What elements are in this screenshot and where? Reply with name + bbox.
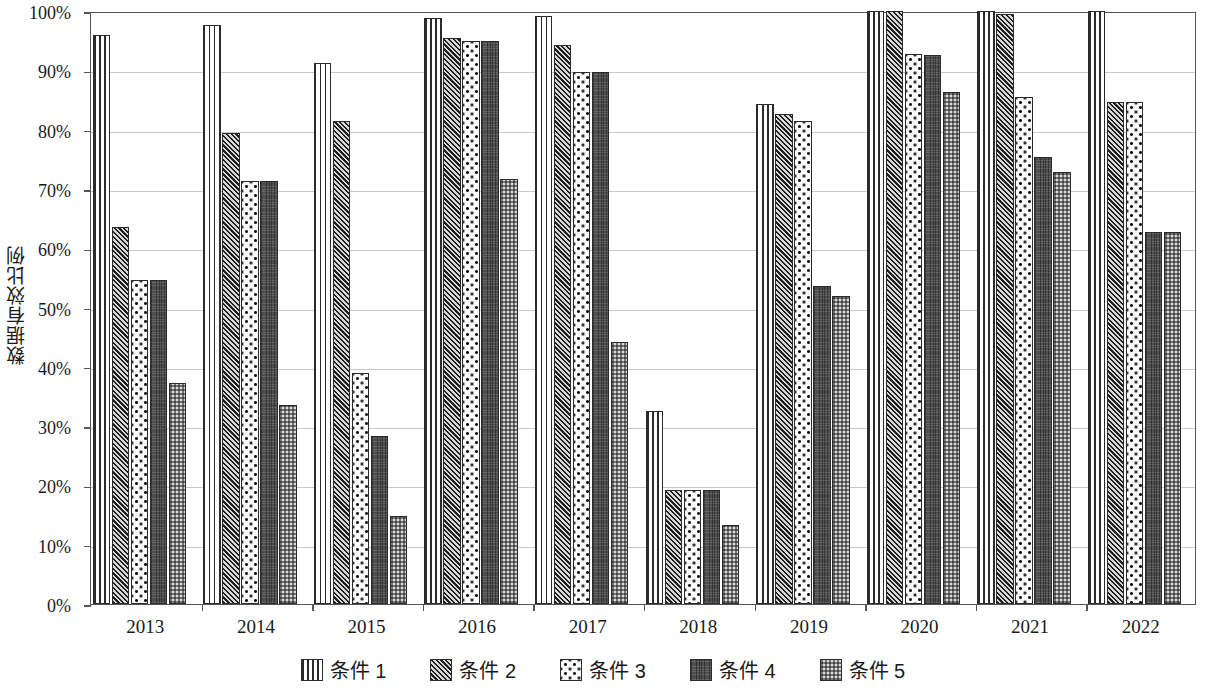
y-tick-mark	[84, 250, 91, 251]
legend-swatch-solid-dark-gray	[690, 659, 712, 681]
bar	[424, 18, 442, 604]
y-tick-mark	[84, 605, 91, 606]
y-tick-label: 50%	[7, 299, 71, 320]
bar	[573, 72, 591, 604]
bar	[1164, 232, 1182, 604]
y-tick-mark	[84, 12, 91, 13]
x-tick-label: 2016	[458, 616, 496, 638]
bar	[1107, 102, 1125, 604]
bar	[169, 383, 187, 604]
y-tick-label: 20%	[7, 477, 71, 498]
legend-item[interactable]: 条件 3	[560, 655, 646, 684]
y-tick-label: 60%	[7, 240, 71, 261]
x-tick-mark	[755, 604, 756, 611]
legend-item[interactable]: 条件 1	[301, 655, 387, 684]
y-tick-mark	[84, 190, 91, 191]
y-tick-label: 30%	[7, 418, 71, 439]
legend-item[interactable]: 条件 5	[820, 655, 906, 684]
legend-swatch-diagonal-hatch	[430, 659, 452, 681]
chart-legend: 条件 1条件 2条件 3条件 4条件 5	[0, 655, 1206, 684]
x-tick-label: 2013	[126, 616, 164, 638]
x-tick-label: 2021	[1011, 616, 1049, 638]
y-tick-label: 0%	[7, 596, 71, 617]
bar	[112, 227, 130, 604]
bar	[1053, 172, 1071, 604]
bar	[481, 41, 499, 604]
legend-item[interactable]: 条件 2	[430, 655, 516, 684]
bar	[646, 411, 664, 604]
y-tick-mark	[84, 309, 91, 310]
legend-swatch-vertical-stripes	[301, 659, 323, 681]
bar	[535, 16, 553, 604]
bar	[832, 296, 850, 604]
y-tick-label: 90%	[7, 62, 71, 83]
bar	[1145, 232, 1163, 604]
bar	[1088, 11, 1106, 604]
bar	[352, 373, 370, 604]
bar	[443, 38, 461, 604]
bar	[813, 286, 831, 604]
bar	[222, 133, 240, 604]
legend-label: 条件 3	[589, 655, 646, 684]
bar	[684, 490, 702, 604]
bar	[996, 14, 1014, 604]
bar	[611, 342, 629, 604]
bar	[867, 11, 885, 604]
bar	[1126, 102, 1144, 604]
x-tick-mark	[1086, 604, 1087, 611]
legend-label: 条件 1	[330, 655, 387, 684]
x-tick-label: 2019	[790, 616, 828, 638]
y-tick-mark	[84, 131, 91, 132]
bar	[150, 280, 168, 604]
bar	[241, 181, 259, 604]
y-tick-label: 40%	[7, 358, 71, 379]
bar	[260, 181, 278, 604]
bar	[703, 490, 721, 604]
bar	[943, 92, 961, 604]
bar	[977, 11, 995, 604]
x-tick-label: 2020	[901, 616, 939, 638]
bar	[131, 280, 149, 604]
x-tick-label: 2017	[569, 616, 607, 638]
x-tick-mark	[976, 604, 977, 611]
bar	[794, 121, 812, 604]
gridline	[91, 72, 1195, 73]
x-tick-mark	[644, 604, 645, 611]
bar	[775, 114, 793, 604]
legend-label: 条件 2	[459, 655, 516, 684]
bar	[886, 11, 904, 604]
y-tick-mark	[84, 368, 91, 369]
x-tick-mark	[202, 604, 203, 611]
plot-area: 0%10%20%30%40%50%60%70%80%90%100%	[90, 12, 1196, 605]
legend-swatch-polka-dots	[560, 659, 582, 681]
bar	[371, 436, 389, 604]
x-tick-mark	[865, 604, 866, 611]
bar-chart: 数据有效比例 0%10%20%30%40%50%60%70%80%90%100%…	[0, 0, 1206, 696]
bar	[756, 104, 774, 604]
bar	[500, 179, 518, 604]
legend-swatch-light-checker	[820, 659, 842, 681]
x-tick-label: 2015	[348, 616, 386, 638]
bar	[333, 121, 351, 604]
x-tick-label: 2014	[237, 616, 275, 638]
x-tick-mark	[533, 604, 534, 611]
bar	[203, 25, 221, 604]
bar	[722, 525, 740, 604]
x-tick-label: 2018	[679, 616, 717, 638]
legend-item[interactable]: 条件 4	[690, 655, 776, 684]
y-tick-label: 80%	[7, 121, 71, 142]
bar	[665, 490, 683, 604]
y-tick-mark	[84, 546, 91, 547]
legend-label: 条件 4	[719, 655, 776, 684]
bar	[554, 45, 572, 604]
y-tick-label: 100%	[7, 3, 71, 24]
bar	[1015, 97, 1033, 604]
x-tick-label: 2022	[1122, 616, 1160, 638]
y-tick-mark	[84, 427, 91, 428]
bar	[1034, 157, 1052, 604]
bar	[905, 54, 923, 604]
y-tick-mark	[84, 72, 91, 73]
bar	[592, 72, 610, 604]
y-tick-mark	[84, 487, 91, 488]
bar	[314, 63, 332, 604]
